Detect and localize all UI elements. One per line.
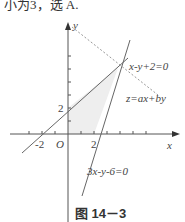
tick-label-y2: 2 xyxy=(58,102,64,114)
line1-label: x-y+2=0 xyxy=(128,60,169,72)
tick-label-neg2: -2 xyxy=(35,138,44,150)
tick-label-x2: 2 xyxy=(91,138,97,150)
x-axis-arrow-icon xyxy=(172,131,180,137)
line2-label: 3x-y-6=0 xyxy=(86,165,129,177)
origin-label: O xyxy=(56,138,64,150)
feasible-region xyxy=(68,68,118,134)
y-axis-label: y xyxy=(72,19,78,31)
figure-caption: 图 14－3 xyxy=(75,203,126,222)
coordinate-diagram: y x O -2 2 2 x-y+2=0 z=ax+by 3x-y-6=0 xyxy=(0,0,185,222)
x-axis-label: x xyxy=(166,139,172,151)
objective-label: z=ax+by xyxy=(125,92,166,104)
y-axis-arrow-icon xyxy=(65,22,71,30)
